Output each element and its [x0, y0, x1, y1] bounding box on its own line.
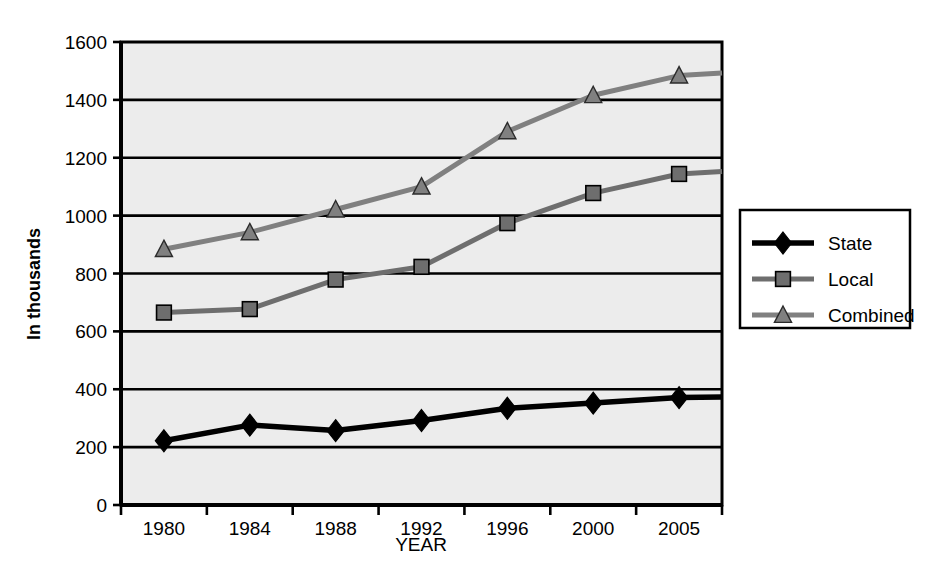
x-tick-label: 1988 — [315, 518, 357, 539]
x-tick-label: 2005 — [658, 518, 700, 539]
y-tick-label: 400 — [75, 379, 107, 400]
y-axis-title: In thousands — [24, 228, 44, 340]
y-tick-label: 600 — [75, 321, 107, 342]
chart-legend: StateLocalCombined — [740, 210, 915, 328]
y-tick-label: 0 — [96, 495, 107, 516]
square-marker — [776, 272, 791, 287]
y-tick-label: 1400 — [65, 90, 107, 111]
y-tick-label: 800 — [75, 264, 107, 285]
square-marker — [672, 167, 687, 182]
chart-figure: 16001400120010008006004002000 1980198419… — [0, 0, 952, 575]
line-chart: 16001400120010008006004002000 1980198419… — [0, 0, 952, 575]
square-marker — [586, 186, 601, 201]
square-marker — [328, 272, 343, 287]
x-tick-label: 1984 — [229, 518, 272, 539]
legend-label: State — [828, 233, 872, 254]
square-marker — [157, 305, 172, 320]
x-tick-label: 2000 — [572, 518, 614, 539]
y-tick-label: 200 — [75, 437, 107, 458]
x-tick-label: 1996 — [486, 518, 528, 539]
legend-label: Combined — [828, 305, 915, 326]
square-marker — [500, 216, 515, 231]
y-tick-label: 1600 — [65, 32, 107, 53]
y-tick-label: 1200 — [65, 148, 107, 169]
x-tick-label: 1980 — [143, 518, 185, 539]
square-marker — [414, 259, 429, 274]
square-marker — [242, 302, 257, 317]
y-tick-label: 1000 — [65, 206, 107, 227]
legend-label: Local — [828, 269, 873, 290]
x-axis-title: YEAR — [395, 534, 447, 555]
